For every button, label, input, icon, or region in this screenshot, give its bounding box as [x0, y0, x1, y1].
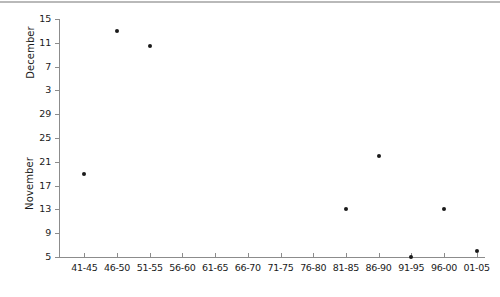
x-tick-label: 01-05 — [454, 262, 500, 273]
y-tick-mark — [55, 257, 59, 258]
axis-title-december: December — [25, 22, 36, 82]
y-tick-mark — [55, 162, 59, 163]
y-tick-label: 21 — [10, 156, 51, 167]
y-tick-mark — [55, 138, 59, 139]
x-tick-mark — [313, 253, 314, 257]
x-tick-mark — [444, 253, 445, 257]
y-tick-mark — [55, 19, 59, 20]
data-point — [442, 207, 446, 211]
y-tick-label: 29 — [10, 108, 51, 119]
scatter-chart: December November 151173292521171395 41-… — [0, 0, 500, 297]
y-tick-label: 11 — [10, 37, 51, 48]
data-point — [475, 249, 479, 253]
data-point — [409, 255, 413, 259]
y-tick-mark — [55, 233, 59, 234]
y-tick-mark — [55, 114, 59, 115]
y-tick-mark — [55, 209, 59, 210]
x-tick-mark — [477, 253, 478, 257]
x-tick-mark — [182, 253, 183, 257]
y-tick-mark — [55, 67, 59, 68]
y-tick-label: 13 — [10, 203, 51, 214]
y-tick-mark — [55, 43, 59, 44]
y-tick-label: 7 — [10, 61, 51, 72]
y-tick-label: 5 — [10, 251, 51, 262]
y-axis-line — [59, 19, 60, 258]
x-tick-mark — [248, 253, 249, 257]
data-point — [344, 207, 348, 211]
x-tick-mark — [281, 253, 282, 257]
y-tick-label: 25 — [10, 132, 51, 143]
y-tick-mark — [55, 186, 59, 187]
y-tick-label: 15 — [10, 13, 51, 24]
data-point — [377, 154, 381, 158]
data-point — [115, 29, 119, 33]
x-tick-mark — [117, 253, 118, 257]
data-point — [148, 44, 152, 48]
data-point — [82, 172, 86, 176]
x-axis-line — [60, 257, 485, 258]
y-tick-mark — [55, 90, 59, 91]
x-tick-mark — [150, 253, 151, 257]
top-divider-rule — [0, 1, 500, 3]
x-tick-mark — [84, 253, 85, 257]
x-tick-mark — [215, 253, 216, 257]
y-tick-label: 3 — [10, 84, 51, 95]
y-tick-label: 9 — [10, 227, 51, 238]
y-tick-label: 17 — [10, 180, 51, 191]
x-tick-mark — [379, 253, 380, 257]
x-tick-mark — [346, 253, 347, 257]
